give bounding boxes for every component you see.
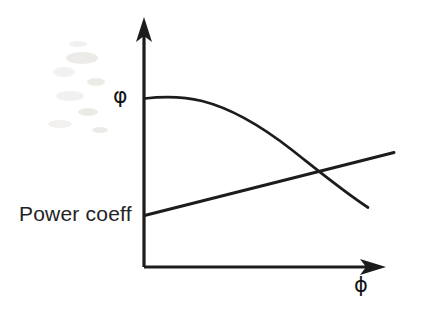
power-coeff-label: Power coeff [19, 203, 132, 224]
y-axis [136, 17, 152, 267]
y-axis-label: φ [113, 85, 128, 107]
series-power-coeff-line [145, 153, 395, 216]
chart-figure: Power coeff φ ϕ [0, 0, 424, 309]
chart-canvas [0, 0, 424, 309]
x-axis-label: ϕ [354, 275, 368, 296]
series-phi-curve [145, 97, 369, 207]
scan-smudge-artifact [48, 41, 108, 133]
x-axis [144, 259, 386, 275]
